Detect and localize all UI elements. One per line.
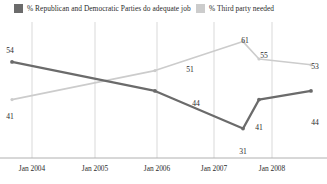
- legend-swatch-icon-secondary: [196, 4, 205, 13]
- value-label-primary-0: 54: [6, 46, 14, 55]
- x-axis-labels: Jan 2004Jan 2005Jan 2006Jan 2007Jan 2008: [0, 162, 327, 184]
- x-axis-tick-4: Jan 2008: [259, 164, 285, 173]
- legend-label-secondary: % Third party needed: [209, 4, 274, 13]
- value-label-secondary-3: 55: [260, 51, 268, 60]
- value-label-secondary-1: 51: [186, 65, 194, 74]
- x-axis-tick-0: Jan 2004: [19, 164, 45, 173]
- x-axis-tick-3: Jan 2007: [201, 164, 227, 173]
- line-chart: % Republican and Democratic Parties do a…: [0, 0, 327, 184]
- value-label-secondary-2: 61: [241, 36, 249, 45]
- plot-svg: [0, 22, 327, 162]
- value-label-primary-2: 31: [239, 147, 247, 156]
- chart-legend: % Republican and Democratic Parties do a…: [0, 0, 327, 22]
- value-label-primary-4: 44: [311, 118, 319, 127]
- series-line-republican-democratic[interactable]: [10, 60, 313, 131]
- legend-item-republican-democratic[interactable]: % Republican and Democratic Parties do a…: [14, 4, 191, 13]
- value-label-secondary-4: 53: [311, 62, 319, 71]
- plot-area: [0, 22, 327, 162]
- legend-item-third-party[interactable]: % Third party needed: [196, 4, 274, 13]
- x-axis-tick-2: Jan 2006: [144, 164, 170, 173]
- x-axis-tick-1: Jan 2005: [82, 164, 108, 173]
- legend-swatch-icon-primary: [14, 4, 23, 13]
- value-label-primary-3: 41: [255, 123, 263, 132]
- value-label-primary-1: 44: [192, 99, 200, 108]
- value-label-secondary-0: 41: [6, 112, 14, 121]
- legend-label-primary: % Republican and Democratic Parties do a…: [27, 4, 191, 13]
